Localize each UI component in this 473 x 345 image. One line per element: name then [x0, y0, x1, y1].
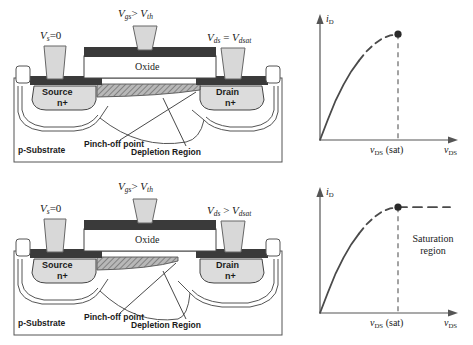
y-axis-label: iD [326, 14, 334, 25]
source-doping-label: n+ [57, 99, 68, 108]
source-electrode [44, 46, 66, 79]
vdsat-tick-label: vDS (sat) [370, 145, 403, 156]
substrate-label: p-Substrate [18, 319, 65, 328]
left-body-contact [16, 239, 30, 256]
drain-voltage-label: Vds > Vdsat [207, 205, 251, 217]
y-axis-arrow [316, 14, 323, 24]
right-body-contact [266, 66, 280, 83]
drain-electrode [221, 221, 245, 252]
drain-label: Drain [216, 88, 239, 97]
curve-saturation-approach-dashed [359, 34, 398, 60]
source-voltage-label: Vs=0 [40, 203, 61, 215]
depletion-region-label: Depletion Region [131, 148, 201, 157]
drain-doping-label: n+ [225, 272, 236, 281]
drain-doping-label: n+ [225, 99, 236, 108]
x-axis-label: vDS [444, 318, 457, 329]
oxide-label: Oxide [135, 62, 159, 72]
oxide-label: Oxide [135, 235, 159, 245]
gate-electrode [133, 26, 157, 50]
source-label: Source [42, 88, 73, 97]
source-electrode [44, 219, 66, 252]
gate-voltage-label: Vgs> Vth [118, 181, 153, 193]
y-axis-label: iD [326, 187, 334, 198]
source-label: Source [42, 261, 73, 270]
drain-label: Drain [216, 261, 239, 270]
saturation-point-marker [394, 204, 401, 211]
drain-voltage-label: Vds = Vdsat [207, 32, 251, 44]
curve-triode-solid [320, 61, 359, 140]
y-axis-arrow [316, 187, 323, 197]
substrate-label: p-Substrate [18, 146, 65, 155]
panel-saturation: Vs=0 Vgs> Vth Vds > Vdsat Oxide Source n… [0, 173, 473, 345]
vdsat-tick-label: vDS (sat) [370, 318, 403, 329]
depletion-region-label: Depletion Region [131, 321, 201, 330]
device-cross-section-saturation: Vs=0 Vgs> Vth Vds > Vdsat Oxide Source n… [0, 173, 298, 345]
panel-pinch-off: Vs=0 Vgs> Vth Vds = Vdsat Oxide Source n… [0, 0, 473, 172]
source-doping-label: n+ [57, 272, 68, 281]
gate-electrode [133, 199, 157, 223]
gate-voltage-label: Vgs> Vth [118, 8, 153, 20]
saturation-point-marker [394, 31, 401, 38]
x-axis-label: vDS [444, 145, 457, 156]
x-axis-arrow [448, 136, 458, 143]
drain-electrode [221, 48, 245, 79]
x-axis-arrow [448, 309, 458, 316]
iv-chart-pinch-off: iD vDS (sat) vDS [298, 0, 473, 172]
device-cross-section-pinch-off: Vs=0 Vgs> Vth Vds = Vdsat Oxide Source n… [0, 0, 298, 172]
saturation-region-label: Saturation region [402, 233, 464, 256]
left-body-contact [16, 66, 30, 83]
right-body-contact [266, 239, 280, 256]
iv-chart-saturation: iD Saturation region vDS (sat) vDS [298, 173, 473, 345]
source-voltage-label: Vs=0 [40, 30, 61, 42]
curve-saturation-approach-dashed [359, 207, 398, 233]
curve-triode-solid [320, 234, 359, 313]
